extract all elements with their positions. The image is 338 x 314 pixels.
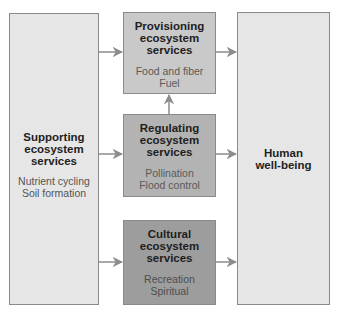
connector-arrows — [0, 0, 338, 314]
